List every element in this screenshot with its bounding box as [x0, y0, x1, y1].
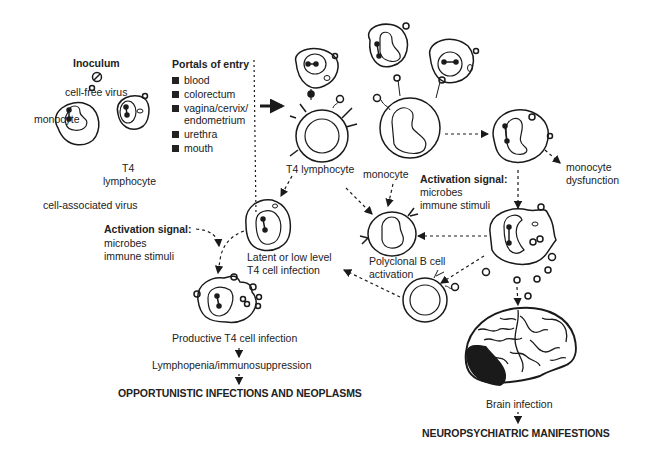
bullet-square-icon	[172, 131, 179, 138]
portal-item-mouth: mouth	[172, 142, 248, 154]
t4-lymphocyte-target-icon	[290, 96, 357, 163]
bullet-square-icon	[172, 105, 179, 112]
bullet-square-icon	[172, 77, 179, 84]
activation-signal-left-title: Activation signal:	[104, 223, 192, 236]
separator-line	[254, 60, 256, 215]
t4-label-line1: T4	[122, 162, 134, 175]
activation-signal-right-line2: immune stimuli	[420, 199, 490, 212]
activation-signal-left-line2: immune stimuli	[104, 250, 174, 263]
neuropsychiatric-label: NEUROPSYCHIATRIC MANIFESTIONS	[422, 427, 610, 440]
activated-monocyte-icon	[483, 204, 557, 299]
monocyte-label: monocyte	[363, 168, 409, 181]
portal-item-urethra: urethra	[172, 128, 248, 140]
portal-item-vagina-cervix: vagina/cervix/endometrium	[172, 102, 248, 126]
b-cell-icon	[360, 208, 418, 256]
lymphopenia-label: Lymphopenia/immunosuppression	[152, 359, 312, 372]
monocyte-center-icon	[374, 75, 446, 158]
monocyte-right-icon	[493, 110, 552, 163]
monocyte-top-left-icon	[369, 23, 409, 67]
latent-t4-cell-icon	[246, 200, 291, 251]
polyclonal-line1: Polyclonal B cell	[369, 255, 445, 268]
monocyte-inoculum-label: monocyte	[34, 113, 80, 126]
polyclonal-line2: activation	[369, 268, 413, 281]
brain-icon	[466, 308, 576, 386]
bullet-square-icon	[172, 145, 179, 152]
latent-infection-line1: Latent or low level	[247, 251, 332, 264]
productive-t4-cell-icon	[194, 274, 262, 322]
portal-item-colorectum: colorectum	[172, 88, 248, 100]
monocyte-dysfunction-line1: monocyte	[566, 161, 612, 174]
monocyte-top-right-icon	[430, 39, 479, 83]
productive-infection-label: Productive T4 cell infection	[172, 332, 297, 345]
portals-title: Portals of entry	[172, 58, 249, 71]
monocyte-dysfunction-line2: dysfunction	[566, 174, 619, 187]
portals-list: blood colorectum vagina/cervix/endometri…	[172, 74, 248, 156]
activation-signal-left-line1: microbes	[104, 237, 147, 250]
cell-free-virus-label: cell-free virus	[65, 86, 127, 99]
t4-lymphocyte-label: T4 lymphocyte	[286, 163, 354, 176]
opportunistic-infections-label: OPPORTUNISTIC INFECTIONS AND NEOPLASMS	[118, 387, 362, 400]
portal-item-blood: blood	[172, 74, 248, 86]
cell-associated-virus-label: cell-associated virus	[43, 199, 138, 212]
t4-label-line2: lymphocyte	[103, 175, 156, 188]
activation-signal-right-line1: microbes	[420, 186, 463, 199]
bullet-square-icon	[172, 91, 179, 98]
brain-infection-label: Brain infection	[486, 398, 553, 411]
infected-monocyte-icon	[296, 49, 338, 100]
latent-infection-line2: T4 cell infection	[247, 264, 320, 277]
virus-particle-icon	[93, 73, 102, 82]
activation-signal-right-title: Activation signal:	[420, 173, 508, 186]
inoculum-title: Inoculum	[73, 57, 120, 70]
